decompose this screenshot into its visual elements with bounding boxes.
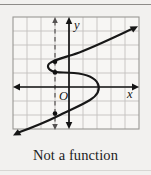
intersection-dot-2	[53, 70, 58, 75]
figure-container: y x O Not a function	[0, 0, 151, 175]
x-axis-label: x	[126, 87, 133, 101]
graph-panel: y x O	[0, 5, 151, 143]
coordinate-graph: y x O	[0, 5, 151, 143]
y-axis-label: y	[72, 18, 80, 32]
figure-caption: Not a function	[0, 146, 151, 164]
origin-label: O	[59, 89, 68, 103]
bottom-divider-rule	[0, 170, 151, 171]
intersection-dot-3	[53, 111, 58, 116]
intersection-dot-1	[53, 60, 58, 65]
